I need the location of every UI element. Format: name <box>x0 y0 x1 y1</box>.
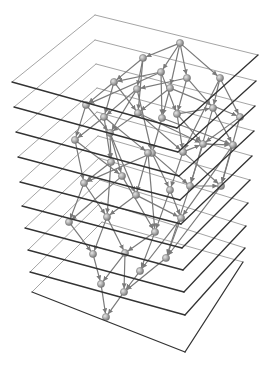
graph-node-n24 <box>118 172 125 179</box>
graph-edges <box>70 44 239 313</box>
graph-node-n4 <box>216 74 223 81</box>
graph-node-n2 <box>157 68 164 75</box>
graph-node-n5 <box>110 78 117 85</box>
edge-n36-n38 <box>126 274 137 289</box>
edge-n16-n21 <box>110 137 111 158</box>
graph-node-n36 <box>136 267 143 274</box>
graph-node-n3 <box>183 74 190 81</box>
graph-node-n19 <box>199 140 206 147</box>
plane-9-front-left-edge <box>32 292 185 352</box>
plane-7-front-left-edge <box>28 250 184 292</box>
plane-0-front-left-edge <box>12 82 177 128</box>
edge-n3-n6 <box>141 79 183 88</box>
plane-0-back-left-edge <box>12 15 95 82</box>
graph-node-n35 <box>162 254 169 261</box>
graph-node-n32 <box>177 214 184 221</box>
plane-1-front-left-edge <box>14 107 178 152</box>
plane-2-back-left-edge <box>16 64 96 132</box>
edge-n25-n32 <box>139 197 177 216</box>
graph-node-n25 <box>132 191 139 198</box>
graph-node-n13 <box>209 104 216 111</box>
plane-4-back-right-edge <box>97 112 252 156</box>
edge-n30-n34 <box>109 220 124 249</box>
graph-node-n31 <box>151 228 158 235</box>
graph-node-n12 <box>173 110 180 117</box>
graph-node-n21 <box>107 158 114 165</box>
plane-4-front-left-edge <box>20 182 181 224</box>
graph-node-n9 <box>100 113 107 120</box>
edge-n23-n29 <box>70 186 82 218</box>
edge-n8-n15 <box>76 108 85 136</box>
graph-node-n30 <box>103 213 110 220</box>
plane-3-front-left-edge <box>18 157 180 200</box>
plane-5-front-left-edge <box>22 206 182 248</box>
edge-n1-n5 <box>117 60 140 79</box>
edge-n26-n32 <box>171 193 179 214</box>
plane-6-front-left-edge <box>25 228 183 270</box>
edge-n7-n10 <box>141 90 167 110</box>
plane-front-edges <box>12 55 258 352</box>
edge-n19-n27 <box>191 147 202 182</box>
graph-node-n33 <box>89 250 96 257</box>
plane-8-front-left-edge <box>30 272 185 315</box>
graph-node-n37 <box>97 280 104 287</box>
plane-8-back-left-edge <box>30 202 101 272</box>
graph-node-n15 <box>71 136 78 143</box>
graph-node-n38 <box>120 288 127 295</box>
plane-9-front-right-edge <box>185 262 243 352</box>
edge-n38-n39 <box>108 295 122 314</box>
edge-n34-n38 <box>124 257 125 288</box>
diagram-canvas <box>0 0 275 368</box>
edge-n0-n4 <box>183 45 217 75</box>
edge-n0-n3 <box>181 47 186 74</box>
graph-node-n0 <box>176 39 183 46</box>
plane-1-back-left-edge <box>14 40 95 107</box>
edge-n34-n37 <box>104 256 123 281</box>
edge-n5-n8 <box>89 84 111 102</box>
plane-back-edges <box>12 15 258 292</box>
graph-node-n10 <box>134 109 141 116</box>
edge-n19-n20 <box>207 144 229 145</box>
edge-n22-n25 <box>137 156 147 191</box>
edge-n18-n19 <box>186 146 199 151</box>
edge-n29-n33 <box>71 225 90 251</box>
layered-graph-diagram <box>0 0 275 368</box>
graph-node-n26 <box>166 186 173 193</box>
edge-n32-n35 <box>167 221 179 254</box>
graph-node-n7 <box>166 84 173 91</box>
edge-n0-n7 <box>171 47 179 84</box>
edge-n7-n11 <box>163 91 169 114</box>
graph-node-n11 <box>158 114 165 121</box>
graph-node-n23 <box>80 179 87 186</box>
graph-node-n6 <box>133 85 140 92</box>
graph-node-n22 <box>144 149 151 156</box>
graph-node-n1 <box>139 54 146 61</box>
